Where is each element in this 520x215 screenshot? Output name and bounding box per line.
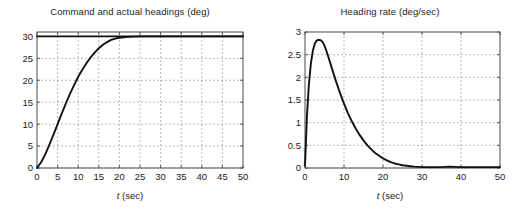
plot-area-command-and-actual-headings: 05101520253035404550051015202530 (0, 0, 260, 215)
svg-text:0: 0 (296, 162, 301, 173)
svg-text:0.5: 0.5 (288, 140, 301, 151)
svg-text:10: 10 (73, 171, 84, 182)
svg-text:0: 0 (34, 171, 39, 182)
svg-text:20: 20 (114, 171, 125, 182)
svg-text:3: 3 (296, 26, 301, 37)
svg-text:20: 20 (22, 75, 33, 86)
svg-text:1.5: 1.5 (288, 94, 301, 105)
svg-text:25: 25 (135, 171, 146, 182)
svg-text:30: 30 (22, 31, 33, 42)
svg-text:45: 45 (217, 171, 228, 182)
svg-text:0: 0 (302, 171, 307, 182)
svg-text:10: 10 (339, 171, 350, 182)
x-axis-unit: (sec) (382, 190, 403, 201)
svg-text:5: 5 (28, 140, 33, 151)
figure: Command and actual headings (deg) 051015… (0, 0, 520, 215)
svg-text:50: 50 (495, 171, 506, 182)
chart-panel-command-and-actual-headings: Command and actual headings (deg) 051015… (0, 0, 260, 215)
svg-text:2.5: 2.5 (288, 49, 301, 60)
svg-text:20: 20 (378, 171, 389, 182)
svg-text:35: 35 (176, 171, 187, 182)
chart-panel-heading-rate: Heading rate (deg/sec) 0102030405000.511… (260, 0, 520, 215)
svg-text:2: 2 (296, 72, 301, 83)
svg-text:40: 40 (456, 171, 467, 182)
svg-text:50: 50 (238, 171, 249, 182)
svg-text:40: 40 (197, 171, 208, 182)
svg-text:1: 1 (296, 117, 301, 128)
x-axis-variable: t (117, 190, 120, 201)
svg-text:0: 0 (28, 162, 33, 173)
svg-text:30: 30 (155, 171, 166, 182)
plot-area-heading-rate: 0102030405000.511.522.53 (260, 0, 520, 215)
x-axis-caption: t (sec) (260, 190, 520, 201)
svg-text:25: 25 (22, 53, 33, 64)
x-axis-variable: t (377, 190, 380, 201)
x-axis-caption: t (sec) (0, 190, 260, 201)
svg-text:5: 5 (55, 171, 60, 182)
svg-text:30: 30 (417, 171, 428, 182)
x-axis-unit: (sec) (122, 190, 143, 201)
svg-text:15: 15 (94, 171, 105, 182)
svg-text:15: 15 (22, 97, 33, 108)
svg-text:10: 10 (22, 119, 33, 130)
